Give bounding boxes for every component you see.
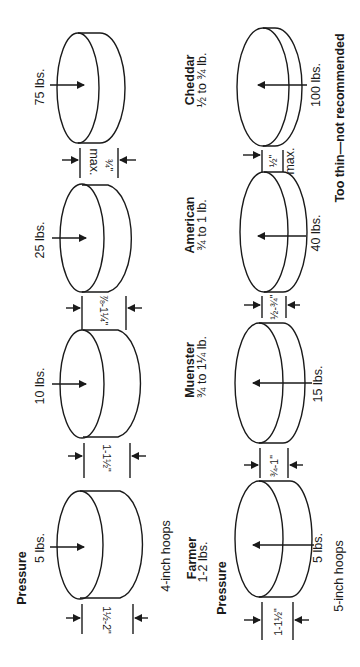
pressure-label-5inch: Pressure [216,561,229,615]
thickness-label-3/4in: ¾" [104,159,115,171]
cheese-size-american: ¾ to 1 lb. [196,199,209,250]
cylinder-10lbs [52,330,146,478]
too-thin-note: Too thin—not recommended [334,33,347,202]
weight-label-5lbs-5inch: 5 lbs. [312,533,325,563]
weight-label-75lbs: 75 lbs. [34,69,47,106]
thickness-label-7/8-1.25in: ⅞-1¼" [99,295,110,326]
pressure-label-4inch: Pressure [16,551,29,605]
thickness-label-1/2in: ½" [268,155,279,167]
weight-label-10lbs: 10 lbs. [34,368,47,405]
weight-label-25lbs: 25 lbs. [34,222,47,259]
cylinder-25lbs [52,184,142,330]
cheese-press-diagram: Pressure 5 lbs. 10 lbs. 25 lbs. 75 lbs. … [0,0,360,667]
cheese-size-cheddar: ½ to ¾ lb. [196,53,209,108]
cheese-size-muenster: ¾ to 1¼ lb. [196,336,209,398]
hoop-label-5inch: 5-inch hoops [333,540,346,612]
hoop-label-4inch: 4-inch hoops [160,520,173,592]
weight-label-40lbs: 40 lbs. [310,215,323,252]
thickness-label-max: max. [88,148,101,175]
thickness-label-1.5-2in: 1½-2" [102,606,113,634]
cheese-size-farmer: 1-2 lbs. [197,542,210,583]
thickness-label-3/4-1in: ¾-1" [269,455,280,477]
thickness-label-1-1.5in: 1-1½" [102,444,113,472]
thickness-label-1-1.5in-5inch: 1-1½" [273,608,284,636]
thickness-label-1/2-3/4in: ½-¾" [269,295,280,320]
weight-label-15lbs: 15 lbs. [312,366,325,403]
cylinders-drawing [0,0,360,667]
cylinder-5lbs-4inch [50,491,148,634]
weight-label-100lbs: 100 lbs. [310,63,323,107]
weight-label-5lbs-4inch: 5 lbs. [34,533,47,563]
thickness-label-max-bottom: max. [284,147,297,174]
